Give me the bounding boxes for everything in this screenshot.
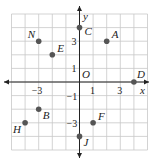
point-label: N xyxy=(27,28,36,40)
coordinate-plane: −31331−1−3 ACNEDBHFJ x y O xyxy=(0,0,153,162)
point-marker-icon xyxy=(90,120,96,126)
point-label: F xyxy=(97,110,105,122)
point-a: A xyxy=(104,28,119,44)
point-j: J xyxy=(77,134,90,149)
x-axis-left-arrow-icon xyxy=(4,80,9,85)
point-h: H xyxy=(12,120,28,135)
y-axis-label: y xyxy=(82,10,88,22)
point-label: B xyxy=(43,109,50,121)
point-label: D xyxy=(136,68,145,80)
point-marker-icon xyxy=(36,106,42,112)
point-marker-icon xyxy=(131,79,137,85)
point-label: H xyxy=(12,123,22,135)
axes xyxy=(4,6,149,158)
y-tick-label: 3 xyxy=(72,36,77,47)
point-label: C xyxy=(85,25,93,37)
x-tick-label: −3 xyxy=(32,85,43,96)
y-axis-down-arrow-icon xyxy=(77,153,82,158)
x-tick-label: 3 xyxy=(117,85,122,96)
y-axis-up-arrow-icon xyxy=(77,6,82,11)
point-label: A xyxy=(111,28,119,40)
x-axis-label: x xyxy=(139,84,145,96)
point-n: N xyxy=(27,28,42,44)
y-tick-label: −1 xyxy=(67,91,78,102)
point-e: E xyxy=(50,42,65,58)
origin-label: O xyxy=(82,68,90,80)
point-marker-icon xyxy=(104,38,110,44)
y-tick-label: −3 xyxy=(67,118,78,129)
y-tick-label: 1 xyxy=(72,63,77,74)
point-marker-icon xyxy=(22,120,28,126)
x-tick-label: 1 xyxy=(90,85,95,96)
point-marker-icon xyxy=(77,25,83,31)
point-f: F xyxy=(90,110,105,126)
point-marker-icon xyxy=(77,134,83,140)
point-b: B xyxy=(36,106,50,121)
point-label: J xyxy=(84,136,90,148)
point-marker-icon xyxy=(36,38,42,44)
point-marker-icon xyxy=(50,52,56,58)
point-label: E xyxy=(56,42,64,54)
